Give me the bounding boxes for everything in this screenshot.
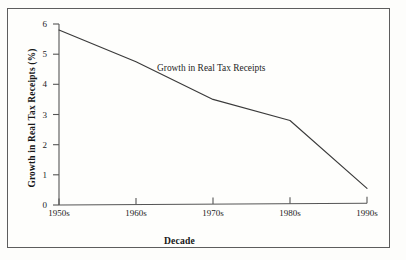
x-tick-label-1980s: 1980s xyxy=(268,208,312,218)
x-tick-label-1970s: 1970s xyxy=(191,208,235,218)
figure-page: 0 1 2 3 4 5 6 1950s 1960s 1970s 1980s 19… xyxy=(0,0,406,260)
y-tick-label-6: 6 xyxy=(31,19,47,29)
data-series-line xyxy=(59,30,367,188)
y-axis-title: Growth in Real Tax Receipts (%) xyxy=(27,33,37,203)
x-tick-label-1960s: 1960s xyxy=(114,208,158,218)
figure-frame: 0 1 2 3 4 5 6 1950s 1960s 1970s 1980s 19… xyxy=(7,8,390,248)
series-annotation-label: Growth in Real Tax Receipts xyxy=(157,63,266,73)
x-tick-label-1990s: 1990s xyxy=(345,208,389,218)
x-axis-title: Decade xyxy=(8,235,351,246)
x-tick-label-1950s: 1950s xyxy=(37,208,81,218)
y-tick-marks xyxy=(53,24,59,205)
